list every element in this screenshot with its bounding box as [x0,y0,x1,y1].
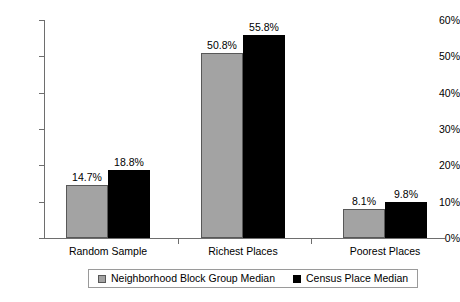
legend-swatch-gray-icon [98,275,106,283]
x-axis-category-label: Richest Places [183,245,303,257]
x-axis-tick [311,239,312,244]
bar [108,170,150,238]
plot-area: 14.7%50.8%8.1%18.8%55.8%9.8% [44,20,445,238]
legend-label: Census Place Median [306,273,408,284]
bar-value-label: 50.8% [195,40,249,51]
chart-legend: Neighborhood Block Group MedianCensus Pl… [88,269,418,288]
bar [201,53,243,238]
legend-swatch-black-icon [293,275,301,283]
x-axis-category-label: Poorest Places [325,245,445,257]
bar-chart: 0%10%20%30%40%50%60% 14.7%50.8%8.1%18.8%… [0,0,460,302]
legend-label: Neighborhood Block Group Median [111,273,275,284]
x-axis-category-label: Random Sample [48,245,168,257]
bar-value-label: 14.7% [60,172,114,183]
x-axis-line [44,238,445,239]
bar-value-label: 18.8% [102,157,156,168]
bar [385,202,427,238]
bar [243,35,285,238]
legend-entry: Census Place Median [293,273,408,284]
x-axis-tick [178,239,179,244]
bar-value-label: 55.8% [237,22,291,33]
bar [343,209,385,238]
legend-entry: Neighborhood Block Group Median [98,273,275,284]
bar [66,185,108,238]
bar-value-label: 9.8% [379,189,433,200]
